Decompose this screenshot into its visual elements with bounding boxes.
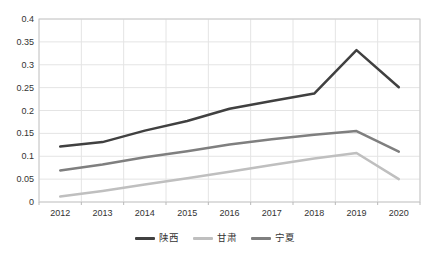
legend: 陕西甘肃宁夏 — [0, 230, 430, 246]
legend-label: 甘肃 — [217, 232, 237, 244]
x-axis-label: 2018 — [297, 208, 331, 218]
line-chart: 00.050.10.150.20.250.30.350.4 2012201320… — [0, 0, 430, 255]
series-line-甘肃 — [60, 153, 399, 197]
legend-line-swatch — [135, 237, 155, 240]
legend-line-swatch — [193, 237, 213, 240]
x-axis-label: 2012 — [43, 208, 77, 218]
legend-label: 陕西 — [159, 232, 179, 244]
x-axis-label: 2019 — [340, 208, 374, 218]
y-axis-label: 0.2 — [6, 106, 34, 116]
x-axis-label: 2015 — [170, 208, 204, 218]
x-axis-label: 2020 — [382, 208, 416, 218]
x-axis-label: 2016 — [213, 208, 247, 218]
y-axis-label: 0.15 — [6, 128, 34, 138]
y-axis-label: 0.35 — [6, 37, 34, 47]
y-axis-label: 0.05 — [6, 174, 34, 184]
y-axis-label: 0.25 — [6, 83, 34, 93]
series-line-宁夏 — [60, 131, 399, 170]
legend-label: 宁夏 — [275, 232, 295, 244]
x-axis-label: 2017 — [255, 208, 289, 218]
gridlines — [39, 19, 420, 202]
x-axis-label: 2013 — [86, 208, 120, 218]
legend-item-甘肃: 甘肃 — [193, 232, 237, 244]
y-axis-label: 0 — [6, 197, 34, 207]
legend-item-陕西: 陕西 — [135, 232, 179, 244]
data-series — [60, 50, 399, 196]
y-axis-label: 0.4 — [6, 14, 34, 24]
y-axis-label: 0.3 — [6, 60, 34, 70]
legend-item-宁夏: 宁夏 — [251, 232, 295, 244]
y-axis-label: 0.1 — [6, 151, 34, 161]
legend-line-swatch — [251, 237, 271, 240]
x-axis-label: 2014 — [128, 208, 162, 218]
